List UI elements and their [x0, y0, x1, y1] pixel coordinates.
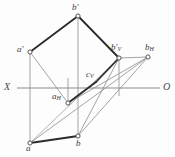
- axis-label-o: O: [163, 82, 170, 92]
- point-label-b-h: bH: [145, 43, 154, 52]
- line-ah-to-bh: [68, 57, 148, 103]
- construction-lines: [30, 16, 148, 143]
- descriptive-geometry-figure: X O b′ a′ b′V bH cV aH a b: [0, 0, 175, 157]
- axis-label-x: X: [4, 82, 10, 92]
- point-label-a: a: [26, 144, 31, 153]
- point-label-c-v: cV: [86, 70, 94, 79]
- line-aprime-to-ah: [30, 52, 68, 103]
- edge-bprimev-cv: [96, 58, 119, 82]
- vertex-b-prime: [76, 14, 80, 18]
- vertex-markers: [28, 14, 150, 145]
- edge-a-b: [30, 136, 78, 143]
- vertex-a-prime: [28, 50, 32, 54]
- point-label-a-prime: a′: [17, 45, 23, 54]
- edge-aprime-bprime: [30, 16, 78, 52]
- vertex-b-h: [146, 55, 150, 59]
- principal-lines: [30, 16, 119, 143]
- vertex-b-prime-v: [117, 56, 121, 60]
- point-label-b-prime-v: b′V: [111, 43, 121, 52]
- point-label-a-h: aH: [52, 92, 61, 101]
- point-label-b: b: [76, 139, 81, 148]
- vertex-a-h: [66, 101, 70, 105]
- line-bprimev-to-bh: [119, 57, 148, 58]
- point-label-b-prime: b′: [72, 3, 78, 12]
- edge-cv-ah: [68, 82, 96, 103]
